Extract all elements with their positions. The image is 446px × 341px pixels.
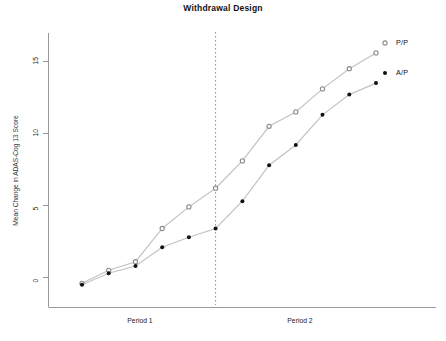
legend-item-ap: A/P xyxy=(396,68,408,77)
series-markers-ap xyxy=(80,81,378,287)
x-group-label-period-1: Period 1 xyxy=(110,317,170,324)
chart-canvas: Withdrawal Design Mean Change in ADAS-Co… xyxy=(0,0,446,341)
x-group-label-period-2: Period 2 xyxy=(270,317,330,324)
y-tick-label-0: 0 xyxy=(28,272,42,279)
legend-marker-ap xyxy=(383,71,387,75)
legend-item-pp: P/P xyxy=(396,38,408,47)
y-tick-label-5: 5 xyxy=(28,200,42,207)
y-tick-label-10: 10 xyxy=(28,126,42,133)
series-line-pp-real xyxy=(82,53,376,283)
legend-marker-pp xyxy=(383,41,387,45)
series-line-ap-real xyxy=(82,83,376,285)
series-markers-pp xyxy=(80,51,378,286)
y-tick-label-15: 15 xyxy=(28,54,42,61)
y-axis-ticks xyxy=(43,62,49,278)
plot-area xyxy=(0,0,446,341)
